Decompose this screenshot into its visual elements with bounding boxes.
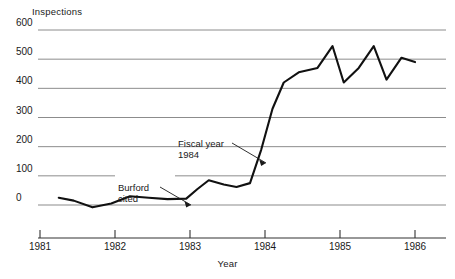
annotation-burford-line2: cited — [118, 193, 149, 204]
x-axis-tick-label: 1981 — [15, 241, 65, 252]
x-axis-ticks — [40, 230, 415, 238]
chart-plot-area — [0, 0, 455, 279]
y-axis-tick-label: 600 — [16, 17, 33, 28]
x-axis-tick-label: 1983 — [165, 241, 215, 252]
x-axis-title: Year — [0, 258, 455, 269]
y-axis-tick-label: 500 — [16, 46, 33, 57]
x-axis-tick-label: 1982 — [90, 241, 140, 252]
fiscal-arrowhead-icon — [259, 159, 266, 166]
chart-figure: Inspections 6005004003002001000 19811982… — [0, 0, 455, 279]
data-line-inspections — [59, 46, 415, 207]
y-axis-tick-label: 0 — [16, 192, 22, 203]
annotation-fiscal-year: Fiscal year 1984 — [178, 138, 224, 160]
annotation-fiscal-line1: Fiscal year — [178, 138, 224, 149]
y-axis-tick-label: 300 — [16, 105, 33, 116]
x-axis-tick-label: 1985 — [315, 241, 365, 252]
y-axis-tick-label: 400 — [16, 75, 33, 86]
x-axis-tick-label: 1986 — [390, 241, 440, 252]
annotation-burford-line1: Burford — [118, 182, 149, 193]
x-axis-tick-label: 1984 — [240, 241, 290, 252]
y-axis-tick-label: 100 — [16, 163, 33, 174]
gridlines — [38, 30, 446, 205]
annotation-burford-cited: Burford cited — [118, 182, 149, 204]
annotation-fiscal-line2: 1984 — [178, 149, 224, 160]
y-axis-tick-label: 200 — [16, 134, 33, 145]
